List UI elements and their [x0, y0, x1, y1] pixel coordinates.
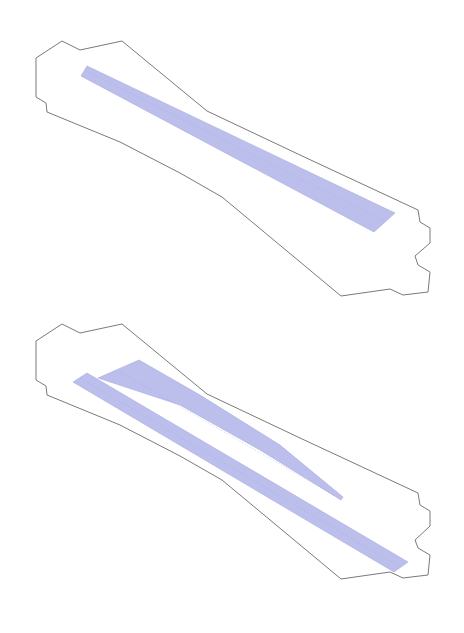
bottom-plan-panel — [36, 324, 430, 579]
top-plan-panel — [36, 41, 430, 296]
plan-diagram — [0, 0, 464, 633]
